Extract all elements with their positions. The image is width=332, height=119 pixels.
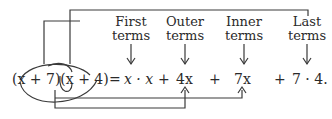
plus-2: + [209,71,221,87]
plus-1: + [158,71,170,87]
plus-3: + [274,71,286,87]
term-outer: 4x [176,71,193,87]
label-line: terms [101,29,161,43]
label-line: First [101,15,161,29]
term-first: x · x [124,71,153,87]
equals-sign: = [109,71,121,87]
label-line: terms [214,29,274,43]
label-line: terms [277,29,332,43]
equation-lhs: (x + 7)(x + 4) [12,71,109,87]
inner-terms-label: Inner terms [214,15,274,43]
label-line: Inner [214,15,274,29]
outer-terms-label: Outer terms [155,15,215,43]
label-line: Last [277,15,332,29]
term-last: 7 · 4. [292,71,328,87]
term-inner: 7x [234,71,251,87]
label-line: Outer [155,15,215,29]
last-terms-label: Last terms [277,15,332,43]
label-line: terms [155,29,215,43]
first-terms-label: First terms [101,15,161,43]
